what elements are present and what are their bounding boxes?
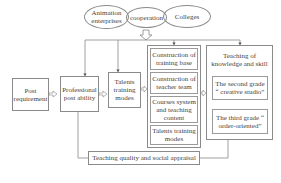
middle-item: Construction of teacher team: [150, 72, 198, 94]
animation-enterprises-label: Animation enterprises: [85, 9, 128, 25]
middle-item-label: Courses system and teaching content: [151, 98, 197, 122]
colleges-label: Colleges: [175, 13, 200, 21]
right-item: The third grade “ order-oriented”: [212, 109, 268, 134]
right-column-title: Teaching of knowledge and skill: [207, 52, 272, 68]
professional-post-ability-box: Professional post ability: [60, 76, 99, 112]
middle-column-container: Construction of training base Constructi…: [147, 45, 201, 148]
middle-item: Construction of training base: [150, 48, 198, 70]
middle-item: Talents training modes: [150, 125, 198, 145]
right-column-container: Teaching of knowledge and skill The seco…: [206, 45, 273, 140]
colleges-ellipse: Colleges: [163, 5, 211, 28]
teaching-quality-box: Teaching quality and social appraisal: [88, 151, 200, 165]
right-item: The second grade “ creative studio”: [212, 76, 268, 100]
post-requirement-box: Post requirement: [12, 78, 49, 111]
talents-training-modes-box: Talents training modes: [108, 72, 141, 108]
teaching-quality-label: Teaching quality and social appraisal: [92, 154, 196, 162]
post-requirement-label: Post requirement: [13, 87, 48, 103]
right-item-label: The third grade “ order-oriented”: [213, 114, 267, 130]
middle-item-label: Construction of training base: [151, 51, 197, 67]
middle-item: Courses system and teaching content: [150, 96, 198, 123]
cooperation-ellipse: cooperation: [126, 7, 167, 28]
right-item-label: The second grade “ creative studio”: [213, 80, 267, 96]
middle-item-label: Construction of teacher team: [151, 75, 197, 91]
animation-enterprises-ellipse: Animation enterprises: [84, 5, 129, 29]
professional-post-ability-label: Professional post ability: [61, 86, 98, 102]
middle-item-label: Talents training modes: [151, 127, 197, 143]
talents-training-modes-label: Talents training modes: [109, 78, 140, 102]
cooperation-label: cooperation: [130, 14, 163, 22]
